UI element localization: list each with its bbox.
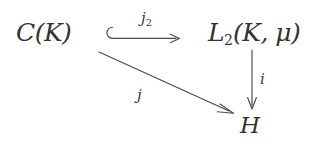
node-l2-argument: (K, μ) [233, 18, 300, 47]
node-c-of-k: C(K) [16, 20, 71, 45]
node-l2-subscript: 2 [224, 32, 233, 48]
diagonal-arrow-shaft [99, 52, 229, 111]
arrow-label-j2-subscript: 2 [146, 17, 152, 28]
node-c-of-k-argument: (K) [35, 18, 72, 47]
hooked-inclusion-arrow [107, 27, 180, 42]
vertical-arrow-i [248, 50, 257, 109]
hooked-arrow-shaft [107, 27, 176, 38]
diagonal-arrow-head [217, 104, 233, 113]
arrow-label-j2: j2 [141, 11, 152, 28]
diagonal-arrow-j [99, 52, 234, 113]
arrow-label-j: j [137, 88, 142, 103]
node-l2-symbol: L [208, 18, 224, 47]
node-l2-of-k-mu: L2(K, μ) [208, 20, 300, 47]
arrow-label-i: i [260, 72, 265, 87]
commutative-diagram: C(K) L2(K, μ) H j2 i j [0, 0, 324, 150]
node-h: H [240, 114, 260, 137]
node-c-of-k-symbol: C [16, 18, 35, 47]
